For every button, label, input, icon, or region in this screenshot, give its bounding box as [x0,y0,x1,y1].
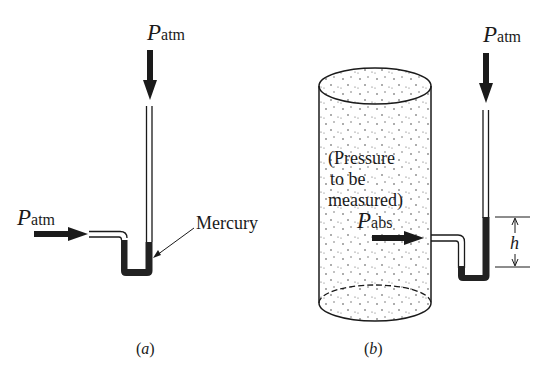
pressure-symbol: P [483,22,497,47]
tube-inlet [89,232,127,241]
pressure-subscript: atm [497,28,521,45]
pressure-subscript: atm [31,211,55,228]
figure-a [34,50,194,276]
top-patm-label-a: Patm [147,20,185,46]
pressure-symbol: P [17,205,31,230]
mercury-leader-arrow [153,228,194,258]
vessel-text-line: (Pressure [328,148,403,169]
pabs-label: Pabs [357,208,392,234]
mercury-column [458,217,490,281]
down-arrow-icon [479,53,493,103]
vessel-text-line: to be [328,169,403,190]
down-arrow-icon [143,50,157,100]
pressure-subscript: abs [371,214,392,231]
top-patm-label-b: Patm [483,22,521,48]
tube-right-leg [147,106,153,242]
pressure-symbol: P [147,20,161,45]
height-label: h [509,233,520,254]
caption-b: (b) [364,340,383,358]
tube-inlet [431,235,465,268]
left-patm-label-a: Patm [17,205,55,231]
caption-a: (a) [136,340,155,358]
tube-right-leg [483,110,489,218]
pressure-symbol: P [357,208,371,233]
manometer-diagram [0,0,554,382]
mercury-label: Mercury [196,213,258,233]
mercury-column [121,240,153,276]
pressure-subscript: atm [161,26,185,43]
vessel-description: (Pressure to be measured) [328,148,403,211]
